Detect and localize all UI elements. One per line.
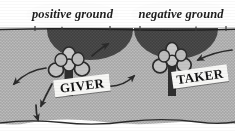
- label-positive-ground: positive ground: [26, 2, 119, 27]
- diagram-canvas: positive ground negative ground GIVER TA…: [0, 0, 235, 131]
- label-negative-ground: negative ground: [131, 1, 231, 27]
- label-negative-ground-text: negative ground: [138, 7, 223, 22]
- label-positive-ground-text: positive ground: [32, 7, 113, 22]
